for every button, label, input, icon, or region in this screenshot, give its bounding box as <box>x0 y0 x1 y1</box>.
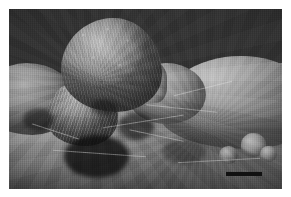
figure-panel <box>0 0 291 197</box>
image-noise-overlay <box>9 9 282 189</box>
scale-bar <box>226 172 262 176</box>
sem-micrograph-image <box>9 9 282 189</box>
